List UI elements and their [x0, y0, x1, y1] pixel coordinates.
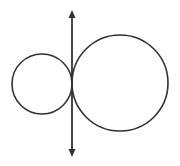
small-circle — [12, 54, 72, 114]
arrowhead-down-icon — [69, 149, 76, 157]
arrowhead-up-icon — [69, 10, 76, 18]
large-circle — [72, 35, 168, 131]
tangent-circles-diagram — [0, 0, 180, 166]
